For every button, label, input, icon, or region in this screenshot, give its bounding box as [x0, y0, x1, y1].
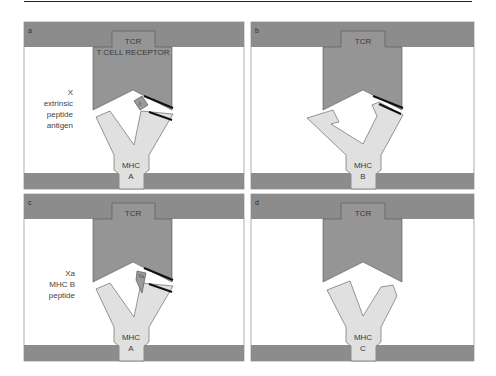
panel-a: X a TCR T CELL RECEPTOR MHC A X extrinsi…	[24, 22, 244, 189]
mhc-allele: B	[360, 172, 365, 181]
side-text-line: X	[68, 88, 74, 97]
panel-letter: a	[28, 27, 32, 34]
mhc-label: MHC	[122, 161, 140, 170]
mhc-allele: A	[128, 172, 134, 181]
panel-letter: d	[255, 199, 259, 206]
tcr-label: TCR	[125, 209, 142, 218]
tcr-label: TCR	[355, 37, 372, 46]
apc-membrane-left	[251, 345, 351, 361]
tcr-label: TCR	[125, 37, 142, 46]
apc-membrane-right	[376, 173, 474, 189]
side-text-line: peptide	[49, 291, 76, 300]
apc-membrane-right	[144, 173, 244, 189]
mhc-label: MHC	[122, 333, 140, 342]
panel-letter: b	[255, 27, 259, 34]
apc-membrane-right	[376, 345, 474, 361]
apc-membrane-left	[251, 173, 351, 189]
apc-membrane-right	[144, 345, 244, 361]
panel-d: d TCR MHC C	[251, 194, 474, 361]
tcr-mhc-figure: X a TCR T CELL RECEPTOR MHC A X extrinsi…	[0, 0, 496, 376]
mhc-label: MHC	[354, 161, 372, 170]
panel-letter: c	[28, 199, 32, 206]
mhc-allele: A	[128, 344, 134, 353]
peptide-label: Xa	[138, 273, 144, 279]
side-text-line: peptide	[47, 110, 74, 119]
side-text-line: extrinsic	[44, 99, 73, 108]
side-text-line: Xa	[65, 269, 75, 278]
tcr-sublabel: T CELL RECEPTOR	[96, 48, 169, 57]
side-text-line: antigen	[47, 121, 73, 130]
apc-membrane-left	[24, 173, 119, 189]
panel-c: Xa c TCR MHC A Xa MHC B peptide	[24, 194, 244, 361]
mhc-label: MHC	[354, 333, 372, 342]
tcr-label: TCR	[355, 209, 372, 218]
apc-membrane-left	[24, 345, 119, 361]
side-text-line: MHC B	[49, 280, 75, 289]
mhc-allele: C	[360, 344, 366, 353]
panel-b: b TCR MHC B	[251, 22, 474, 189]
